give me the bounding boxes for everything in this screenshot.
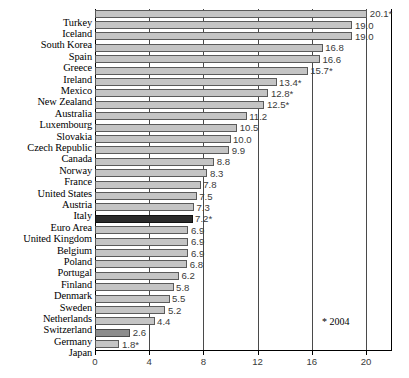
category-label: Denmark	[0, 291, 92, 301]
value-label: 19.0	[355, 32, 374, 42]
value-label: 8.3	[210, 169, 223, 179]
category-label: France	[0, 177, 92, 187]
category-label: Czech Republic	[0, 143, 92, 153]
category-label: Italy	[0, 211, 92, 221]
category-label: Japan	[0, 348, 92, 358]
value-label: 1.8*	[122, 340, 139, 350]
bar	[95, 44, 323, 52]
bar	[95, 226, 188, 234]
bar	[95, 89, 268, 97]
value-label: 15.7*	[310, 66, 332, 76]
category-label: Mexico	[0, 86, 92, 96]
bar	[95, 146, 229, 154]
bar	[95, 317, 155, 325]
bar	[95, 67, 308, 75]
value-label: 11.2	[249, 112, 267, 122]
bar	[95, 249, 188, 257]
bar	[95, 169, 207, 177]
category-label: Ireland	[0, 75, 92, 85]
footnote: * 2004	[322, 316, 350, 327]
x-tick-label: 8	[201, 357, 206, 367]
x-tick-label: 0	[92, 357, 97, 367]
category-label: Greece	[0, 63, 92, 73]
category-label: Canada	[0, 154, 92, 164]
x-tick	[95, 351, 96, 355]
category-label: Germany	[0, 337, 92, 347]
value-label: 16.8	[325, 43, 344, 53]
value-label: 6.2	[182, 271, 195, 281]
value-label: 6.9	[191, 226, 204, 236]
value-label: 13.4*	[279, 78, 301, 88]
value-label: 16.6	[322, 55, 341, 65]
value-label: 12.8*	[271, 89, 293, 99]
x-tick-label: 12	[252, 357, 263, 367]
category-label: South Korea	[0, 40, 92, 50]
bar	[95, 158, 214, 166]
bar	[95, 238, 188, 246]
category-label: United Kingdom	[0, 234, 92, 244]
bar	[95, 306, 165, 314]
category-label: United States	[0, 189, 92, 199]
bar	[95, 329, 130, 337]
value-label: 9.9	[232, 146, 245, 156]
value-label: 6.8	[190, 260, 203, 270]
bar	[95, 295, 170, 303]
bar	[95, 272, 179, 280]
value-label: 19.0	[355, 21, 374, 31]
category-label: Norway	[0, 166, 92, 176]
x-tick-label: 16	[306, 357, 317, 367]
value-label: 5.8	[176, 283, 189, 293]
value-label: 20.1*	[370, 9, 392, 19]
x-tick-label: 4	[147, 357, 152, 367]
category-label: Austria	[0, 200, 92, 210]
value-label: 12.5*	[267, 100, 289, 110]
value-label: 7.8	[203, 180, 216, 190]
value-label: 5.5	[172, 294, 185, 304]
value-label: 8.8	[217, 157, 230, 167]
category-label: Portugal	[0, 268, 92, 278]
x-tick	[312, 351, 313, 355]
category-label: Spain	[0, 52, 92, 62]
bar	[95, 32, 352, 40]
x-tick	[366, 351, 367, 355]
bar	[95, 124, 237, 132]
bar	[95, 181, 201, 189]
bar	[95, 55, 320, 63]
value-label: 6.9	[191, 237, 204, 247]
category-label: Netherlands	[0, 314, 92, 324]
category-label: Switzerland	[0, 325, 92, 335]
bar	[95, 78, 277, 86]
value-label: 10.0	[233, 135, 252, 145]
bar	[95, 215, 193, 223]
bar	[95, 340, 119, 348]
value-label: 10.5	[240, 123, 259, 133]
category-label: Australia	[0, 109, 92, 119]
category-label: Luxembourg	[0, 120, 92, 130]
x-tick	[258, 351, 259, 355]
bar	[95, 135, 231, 143]
category-label: Iceland	[0, 29, 92, 39]
bar	[95, 283, 174, 291]
category-label: New Zealand	[0, 97, 92, 107]
bar	[95, 192, 197, 200]
category-label: Euro Area	[0, 223, 92, 233]
category-label: Sweden	[0, 303, 92, 313]
bar	[95, 21, 352, 29]
value-label: 4.4	[157, 317, 170, 327]
value-label: 7.3	[196, 203, 209, 213]
category-label: Poland	[0, 257, 92, 267]
bar	[95, 260, 187, 268]
gridline-20	[366, 9, 367, 350]
bar	[95, 203, 194, 211]
x-tick	[203, 351, 204, 355]
category-label: Finland	[0, 280, 92, 290]
bar	[95, 112, 247, 120]
value-label: 7.5	[199, 192, 212, 202]
bar	[95, 101, 264, 109]
category-label: Turkey	[0, 18, 92, 28]
value-label: 5.2	[168, 306, 181, 316]
category-label: Slovakia	[0, 132, 92, 142]
bar	[95, 10, 367, 18]
value-label: 7.2*	[195, 214, 212, 224]
x-tick	[149, 351, 150, 355]
